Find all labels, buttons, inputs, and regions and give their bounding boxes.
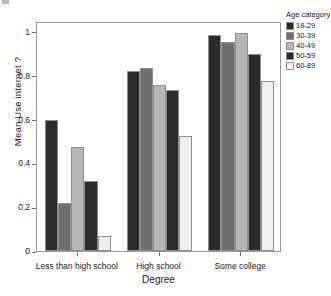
x-axis-title: Degree	[36, 274, 281, 285]
plot-area	[36, 22, 281, 252]
legend: Age category 18-2930-3940-4950-5960-89	[286, 10, 331, 71]
y-axis-title: Mean Use internet ?	[12, 0, 23, 207]
legend-entries: 18-2930-3940-4950-5960-89	[286, 21, 331, 71]
y-tick-label: 0	[25, 246, 30, 256]
corner-artifact	[2, 0, 9, 4]
bar	[235, 33, 248, 251]
legend-item-label: 40-49	[296, 41, 315, 50]
legend-item-label: 50-59	[296, 51, 315, 60]
x-category-label: Some college	[214, 261, 266, 271]
bar	[71, 147, 84, 251]
y-tick-label: 0.2	[18, 202, 30, 212]
legend-title: Age category	[286, 10, 331, 19]
x-category-label: Less than high school	[36, 261, 118, 271]
legend-item[interactable]: 50-59	[286, 51, 331, 61]
bar	[58, 203, 71, 251]
legend-swatch-icon	[286, 22, 294, 30]
legend-swatch-icon	[286, 42, 294, 50]
x-tick-mark	[159, 252, 160, 256]
legend-item[interactable]: 60-89	[286, 61, 331, 71]
bar	[221, 42, 234, 251]
legend-swatch-icon	[286, 52, 294, 60]
legend-item-label: 18-29	[296, 21, 315, 30]
bar	[261, 81, 274, 251]
bar	[84, 181, 97, 251]
bar	[248, 54, 261, 251]
bar	[166, 90, 179, 251]
legend-item[interactable]: 40-49	[286, 41, 331, 51]
legend-swatch-icon	[286, 62, 294, 70]
x-tick-mark	[240, 252, 241, 256]
x-category-label: High school	[136, 261, 180, 271]
x-tick-mark	[77, 252, 78, 256]
legend-item-label: 60-89	[296, 61, 315, 70]
y-tick-label: 0.6	[18, 115, 30, 125]
bar	[45, 120, 58, 251]
bar	[208, 35, 221, 251]
y-tick-label: 0.4	[18, 158, 30, 168]
legend-item[interactable]: 30-39	[286, 31, 331, 41]
bar	[179, 136, 192, 251]
legend-swatch-icon	[286, 32, 294, 40]
bar	[127, 71, 140, 251]
bar	[153, 85, 166, 251]
bar	[140, 68, 153, 251]
legend-item[interactable]: 18-29	[286, 21, 331, 31]
legend-item-label: 30-39	[296, 31, 315, 40]
y-tick-label: 0.8	[18, 71, 30, 81]
bar-chart: Mean Use internet ? 00.20.40.60.81 Less …	[0, 0, 331, 296]
y-tick-label: 1	[25, 27, 30, 37]
bar	[98, 236, 111, 251]
